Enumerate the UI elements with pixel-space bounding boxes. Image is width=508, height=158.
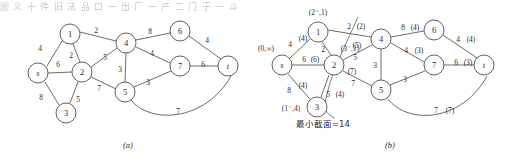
- panel-a: s 1 2 3 4 5 6 7 t 4 6 8 2 2 5 5 7 3 8 4 …: [28, 21, 238, 150]
- node-label-5: 5: [123, 87, 127, 97]
- edge-4-6: [136, 33, 170, 40]
- edge-b-cap-5-7: 3: [403, 75, 407, 84]
- edge-b-cap-s-2: 6: [302, 55, 306, 64]
- edge-weight-7-t: 6: [201, 60, 205, 69]
- edge-weight-2-5: 7: [97, 84, 101, 93]
- node-b-label-2: 2: [332, 60, 336, 70]
- node-tag-3: (1⁻,4): [282, 104, 301, 113]
- edge-b-flow-s-1: (4): [299, 34, 308, 43]
- min-cut-annotation: 最小截面=14: [296, 119, 350, 129]
- edge-b-cap-5-t: 7: [434, 106, 438, 115]
- edge-b-cap-4-6: 8: [401, 23, 405, 32]
- node-b-label-7: 7: [432, 60, 436, 70]
- edge-2-5: [91, 77, 116, 89]
- edge-b-cap-4-7: 4: [404, 46, 408, 55]
- edge-weight-2-4: 5: [103, 53, 107, 62]
- node-label-2: 2: [80, 67, 84, 77]
- edge-b-5-7: [390, 71, 425, 85]
- node-b-label-1: 1: [316, 27, 320, 37]
- edge-b-flow-6-t: (4): [467, 35, 476, 44]
- node-tag-s: (0,∞): [258, 44, 274, 53]
- edge-b-flow-2-3: (4): [336, 90, 345, 99]
- edge-weight-6-t: 4: [205, 36, 209, 45]
- node-label-1: 1: [68, 29, 72, 39]
- edge-weight-1-4: 2: [94, 26, 98, 35]
- edge-b-cap-6-t: 4: [456, 35, 460, 44]
- edge-b-flow-2-4: (5): [353, 41, 362, 50]
- panel-a-caption: (a): [123, 140, 133, 150]
- edge-b-flow-s-3: (4): [299, 81, 308, 90]
- node-tag-1: (2⁻,1): [309, 8, 328, 17]
- panel-b-caption: (b): [385, 140, 395, 150]
- edge-weight-s-2: 6: [56, 60, 60, 69]
- edge-weight-4-5: 3: [118, 65, 122, 74]
- edge-4-5: [125, 53, 126, 82]
- edge-weight-1-2: 2: [69, 51, 73, 60]
- edge-weight-2-3: 5: [76, 95, 80, 104]
- edge-b-cap-2-4: 5: [353, 53, 357, 62]
- edge-b-flow-5-t: (7): [446, 106, 455, 115]
- edge-5-7: [134, 71, 171, 87]
- edge-weight-s-1: 4: [38, 44, 42, 53]
- edge-weight-4-6: 8: [148, 27, 152, 36]
- edge-b-flow-7-t: (3): [464, 58, 473, 67]
- edge-b-cap-4-5: 3: [373, 61, 377, 70]
- edge-b-flow-4-6: (4): [411, 23, 420, 32]
- edge-b-cap-s-1: 4: [288, 40, 292, 49]
- network-flow-figure: s 1 2 3 4 5 6 7 t 4 6 8 2 2 5 5 7 3 8 4 …: [0, 0, 508, 158]
- edge-b-cap-s-3: 8: [287, 86, 291, 95]
- edge-weight-s-3: 8: [39, 93, 43, 102]
- edge-b-cap-1-4: 2: [347, 22, 351, 31]
- edge-b-flow-1-4: (2): [357, 22, 366, 31]
- edge-b-4-6: [391, 31, 424, 37]
- node-b-label-5: 5: [379, 85, 383, 95]
- edge-1-4: [80, 32, 116, 41]
- edge-weight-4-7: 4: [150, 49, 154, 58]
- node-b-label-3: 3: [315, 102, 319, 112]
- edge-b-flow-2-5: (7): [348, 67, 357, 76]
- edge-b-flow-4-7: (3): [415, 46, 424, 55]
- edge-s-3: [45, 82, 59, 105]
- edge-s-2: [48, 72, 72, 73]
- edge-b-cap-1-2: 2: [321, 45, 325, 54]
- panel-b: s 1 2 3 4 5 6 7 t (0,∞) (2⁻,1) (3⁻,1) (1…: [258, 8, 494, 151]
- edge-b-cap-2-5: 7: [351, 79, 355, 88]
- node-label-6: 6: [178, 26, 182, 36]
- edge-weight-5-t: 7: [176, 107, 180, 116]
- node-label-3: 3: [64, 108, 68, 118]
- edge-b-cap-7-t: 6: [454, 58, 458, 67]
- node-b-label-6: 6: [432, 25, 436, 35]
- node-label-7: 7: [178, 61, 182, 71]
- edge-b-cap-2-3: 5: [326, 90, 330, 99]
- edge-weight-5-7: 3: [146, 78, 150, 87]
- edge-1-2: [73, 44, 80, 62]
- edge-b-flow-s-2: (6): [311, 55, 320, 64]
